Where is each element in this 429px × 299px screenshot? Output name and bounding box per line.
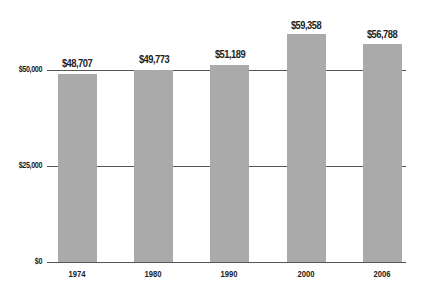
value-label-1980: $49,773 — [129, 53, 180, 65]
bar-2006 — [363, 44, 402, 262]
x-tick-label-1974: 1974 — [60, 269, 94, 279]
y-tick-label-25000: $25,000 — [8, 160, 42, 170]
bar-1980 — [134, 70, 173, 262]
y-tick-label-50000: $50,000 — [8, 64, 42, 74]
bar-chart: $50,000 $25,000 $0 $48,707 $49,773 $51,1… — [0, 0, 429, 299]
x-tick-label-2006: 2006 — [365, 269, 399, 279]
value-label-2000: $59,358 — [281, 19, 332, 31]
value-label-1974: $48,707 — [52, 57, 103, 69]
x-tick-label-2000: 2000 — [289, 269, 323, 279]
x-tick-label-1990: 1990 — [212, 269, 246, 279]
y-tick-label-0: $0 — [8, 256, 42, 266]
bar-1990 — [210, 65, 249, 262]
bar-1974 — [58, 74, 97, 262]
value-label-1990: $51,189 — [205, 48, 256, 60]
x-tick-label-1980: 1980 — [136, 269, 170, 279]
bar-2000 — [287, 34, 326, 262]
x-axis-line — [47, 262, 406, 263]
value-label-2006: $56,788 — [357, 28, 408, 40]
